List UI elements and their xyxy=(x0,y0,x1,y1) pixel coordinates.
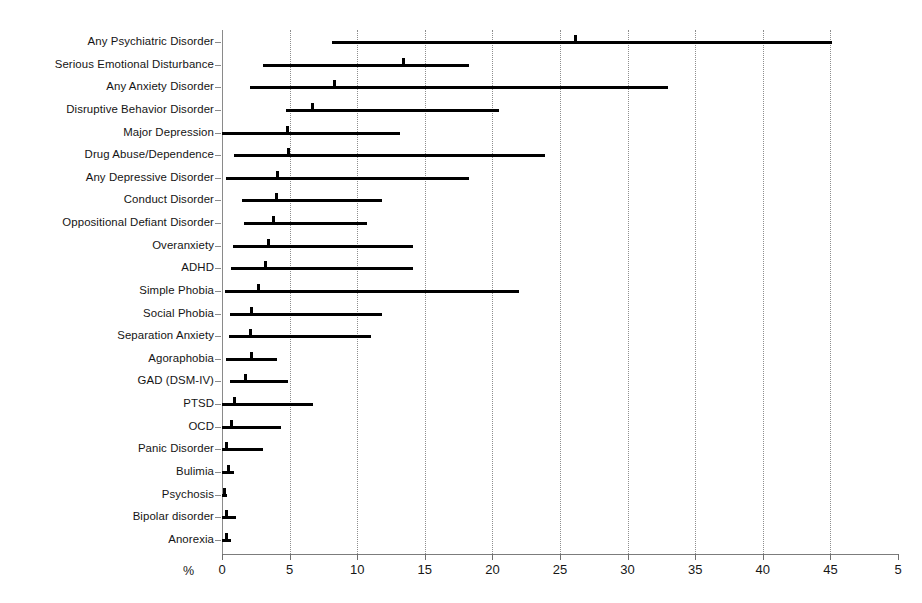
y-axis-category-label: OCD xyxy=(0,421,214,432)
y-axis-category-label: Serious Emotional Disturbance xyxy=(0,59,214,70)
range-bar xyxy=(222,448,263,451)
x-tick-15 xyxy=(425,554,426,560)
y-axis-category-label: Major Depression xyxy=(0,127,214,138)
x-tick-label: 5 xyxy=(270,562,310,577)
range-bar xyxy=(233,245,413,248)
x-tick-5 xyxy=(290,554,291,560)
y-tick xyxy=(215,540,221,541)
x-tick-label: 30 xyxy=(608,562,648,577)
y-tick xyxy=(215,223,221,224)
x-tick-label: 10 xyxy=(337,562,377,577)
y-tick xyxy=(215,133,221,134)
median-marker xyxy=(287,148,290,157)
median-marker xyxy=(272,216,275,225)
median-marker xyxy=(311,103,314,112)
range-bar xyxy=(225,290,520,293)
median-marker xyxy=(402,58,405,67)
gridline-35 xyxy=(695,30,696,554)
range-bar xyxy=(332,41,832,44)
x-tick-0 xyxy=(222,554,223,560)
y-axis-category-label: Panic Disorder xyxy=(0,443,214,454)
x-tick-45 xyxy=(830,554,831,560)
y-axis-category-label: Overanxiety xyxy=(0,240,214,251)
x-tick-50 xyxy=(898,554,899,560)
y-tick xyxy=(215,110,221,111)
y-axis-category-label: Anorexia xyxy=(0,534,214,545)
y-axis-category-label: Conduct Disorder xyxy=(0,194,214,205)
range-bar xyxy=(250,86,668,89)
x-tick-label: 35 xyxy=(675,562,715,577)
median-marker xyxy=(250,307,253,316)
y-tick xyxy=(215,155,221,156)
y-axis-category-label: Any Depressive Disorder xyxy=(0,172,214,183)
y-axis-category-label: Disruptive Behavior Disorder xyxy=(0,104,214,115)
gridline-30 xyxy=(628,30,629,554)
x-axis-unit-label: % xyxy=(183,564,194,578)
x-tick-40 xyxy=(763,554,764,560)
y-axis-category-label: Any Anxiety Disorder xyxy=(0,81,214,92)
range-bar xyxy=(242,199,381,202)
median-marker xyxy=(227,465,230,474)
x-tick-30 xyxy=(628,554,629,560)
x-tick-35 xyxy=(695,554,696,560)
median-marker xyxy=(267,239,270,248)
range-bar xyxy=(231,267,412,270)
y-tick xyxy=(215,449,221,450)
y-tick xyxy=(215,314,221,315)
y-tick xyxy=(215,336,221,337)
y-tick xyxy=(215,427,221,428)
x-tick-25 xyxy=(560,554,561,560)
median-marker xyxy=(225,533,228,542)
median-marker xyxy=(233,397,236,406)
y-tick xyxy=(215,495,221,496)
y-axis-category-label: Drug Abuse/Dependence xyxy=(0,149,214,160)
range-bar xyxy=(222,132,400,135)
median-marker xyxy=(250,352,253,361)
prevalence-range-chart: Any Psychiatric DisorderSerious Emotiona… xyxy=(0,0,922,603)
plot-area xyxy=(222,30,898,554)
median-marker xyxy=(286,126,289,135)
x-tick-20 xyxy=(492,554,493,560)
x-tick-label: 40 xyxy=(743,562,783,577)
range-bar xyxy=(263,64,470,67)
y-axis-category-label: Bipolar disorder xyxy=(0,511,214,522)
y-axis-category-label: Agoraphobia xyxy=(0,353,214,364)
y-tick xyxy=(215,359,221,360)
median-marker xyxy=(249,329,252,338)
median-marker xyxy=(574,35,577,44)
median-marker xyxy=(230,420,233,429)
x-tick-label: 45 xyxy=(810,562,850,577)
median-marker xyxy=(244,374,247,383)
median-marker xyxy=(333,80,336,89)
y-axis-category-label: Psychosis xyxy=(0,489,214,500)
y-tick xyxy=(215,87,221,88)
y-axis-category-label: ADHD xyxy=(0,262,214,273)
x-tick-label: 20 xyxy=(472,562,512,577)
y-axis-labels: Any Psychiatric DisorderSerious Emotiona… xyxy=(0,0,214,603)
x-tick-label: 0 xyxy=(202,562,242,577)
y-tick xyxy=(215,65,221,66)
y-tick xyxy=(215,517,221,518)
range-bar xyxy=(244,222,367,225)
y-tick xyxy=(215,381,221,382)
x-tick-label: 5 xyxy=(878,562,918,577)
gridline-45 xyxy=(830,30,831,554)
gridline-40 xyxy=(763,30,764,554)
y-axis-category-label: Bulimia xyxy=(0,466,214,477)
range-bar xyxy=(226,177,469,180)
y-tick xyxy=(215,291,221,292)
y-axis-category-label: Oppositional Defiant Disorder xyxy=(0,217,214,228)
x-tick-10 xyxy=(357,554,358,560)
median-marker xyxy=(264,261,267,270)
y-axis-category-label: Any Psychiatric Disorder xyxy=(0,36,214,47)
median-marker xyxy=(275,193,278,202)
y-tick xyxy=(215,404,221,405)
y-tick xyxy=(215,246,221,247)
median-marker xyxy=(225,510,228,519)
y-axis-category-label: PTSD xyxy=(0,398,214,409)
y-tick xyxy=(215,200,221,201)
y-tick xyxy=(215,178,221,179)
y-axis-category-label: Simple Phobia xyxy=(0,285,214,296)
median-marker xyxy=(225,442,228,451)
y-axis-category-label: Separation Anxiety xyxy=(0,330,214,341)
